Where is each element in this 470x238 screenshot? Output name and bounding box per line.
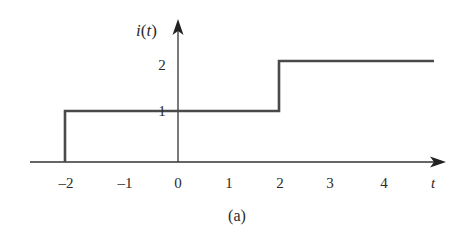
y-tick-label-1: 1 bbox=[158, 103, 166, 119]
step-function-line bbox=[65, 61, 434, 162]
x-tick-label-2: 2 bbox=[276, 175, 284, 191]
y-label-paren-close: ) bbox=[151, 21, 157, 40]
x-tick-label-neg1: –1 bbox=[117, 175, 133, 191]
step-function-figure: i(t) 2 1 –2 –1 0 1 2 3 4 t (a) bbox=[0, 0, 470, 238]
y-axis-label: i(t) bbox=[136, 21, 157, 40]
x-tick-label-neg2: –2 bbox=[58, 175, 74, 191]
x-tick-label-1: 1 bbox=[225, 175, 233, 191]
figure-caption: (a) bbox=[228, 207, 246, 225]
y-tick-label-2: 2 bbox=[158, 57, 166, 73]
x-tick-label-3: 3 bbox=[326, 175, 334, 191]
x-tick-label-4: 4 bbox=[380, 175, 388, 191]
x-axis-label: t bbox=[431, 175, 436, 191]
x-tick-label-0: 0 bbox=[174, 175, 182, 191]
